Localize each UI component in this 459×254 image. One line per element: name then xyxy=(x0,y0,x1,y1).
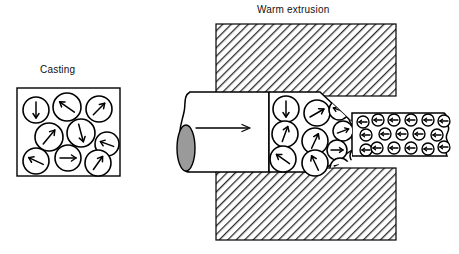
billet-end-cap xyxy=(177,125,195,171)
casting-panel xyxy=(17,88,120,176)
die-block-lower xyxy=(216,168,396,240)
warm-extrusion-panel xyxy=(177,24,450,240)
process-diagram xyxy=(0,0,459,254)
figure-root: Casting Warm extrusion xyxy=(0,0,459,254)
warm-extrusion-label: Warm extrusion xyxy=(257,4,329,15)
die-block-upper xyxy=(216,24,396,96)
casting-label: Casting xyxy=(40,64,75,75)
